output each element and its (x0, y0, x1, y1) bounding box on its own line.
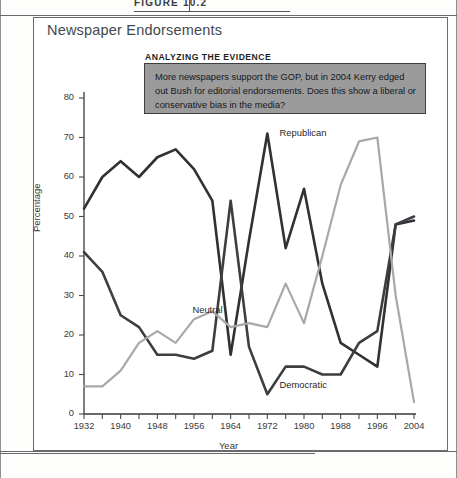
figure-number-label: FIGURE 10.2 (134, 0, 207, 8)
callout-body: More newspapers support the GOP, but in … (155, 70, 419, 112)
caption-rule (134, 11, 290, 12)
page-rule-top (0, 15, 457, 16)
page-edge-left (0, 0, 1, 478)
figure-caption-strip: FIGURE 10.2 (0, 0, 457, 16)
caption-tick (189, 0, 190, 12)
callout-heading: ANALYZING THE EVIDENCE (145, 52, 271, 62)
figure-title: Newspaper Endorsements (47, 22, 222, 38)
figure-page: FIGURE 10.2 Newspaper Endorsements ANALY… (0, 0, 457, 478)
page-rule-bottom (0, 451, 457, 452)
page-rule-bottom-secondary (0, 453, 315, 454)
callout-box: More newspapers support the GOP, but in … (144, 63, 426, 114)
